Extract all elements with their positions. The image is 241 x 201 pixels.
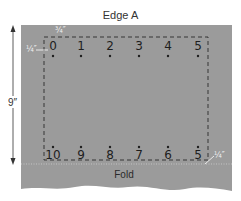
marker-number: 6 [164,148,172,162]
marker-dot [197,55,199,57]
marker-number: 5 [194,148,202,162]
top-margin-fraction: ¾″ [55,26,66,35]
marker-number: 4 [164,39,172,53]
marker-dot [52,55,54,57]
marker-dot [80,55,82,57]
marker-dot [109,55,111,57]
arrow-down-icon [11,158,16,165]
marker-number: 1 [77,39,85,53]
marker-number: 10 [45,148,60,162]
fold-label: Fold [114,169,133,180]
marker-number: 9 [77,148,85,162]
marker-number: 0 [49,39,57,53]
marker-number: 5 [194,39,202,53]
marker-number: 7 [135,148,143,162]
height-dimension-arrow [11,25,16,165]
marker-dot [167,55,169,57]
left-margin-fraction: ¼″ [26,45,37,54]
marker-number: 3 [135,39,143,53]
marker-number: 8 [106,148,114,162]
bottom-right-margin-fraction: ¼″ [214,151,225,160]
marker-number: 2 [106,39,114,53]
marker-dot [138,55,140,57]
height-dimension-label: 9″ [8,97,18,108]
folding-diagram: 9″ ¾″ ¼″ ¼″ 0 1 2 3 4 5 10 9 8 7 6 5 Fol… [0,0,241,201]
arrow-up-icon [11,25,16,32]
